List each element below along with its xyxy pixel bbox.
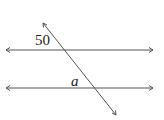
- angle-label-a: a: [71, 73, 79, 89]
- parallel-line-bottom: [6, 86, 153, 91]
- transversal-line: [43, 23, 116, 115]
- parallel-lines-diagram: 50 a: [0, 0, 164, 120]
- parallel-line-top: [6, 48, 153, 53]
- angle-label-50: 50: [35, 32, 50, 48]
